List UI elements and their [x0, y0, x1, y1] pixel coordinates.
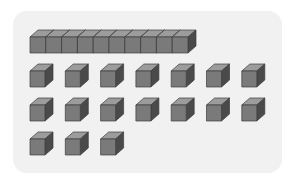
cube-front-face — [46, 37, 62, 53]
unit-cube — [65, 64, 88, 87]
cube-front-face — [136, 105, 151, 121]
cube-front-face — [65, 105, 80, 121]
cube-front-face — [207, 71, 222, 87]
unit-cube — [30, 132, 53, 155]
cube-front-face — [101, 139, 116, 155]
cube-front-face — [141, 37, 157, 53]
unit-cube — [65, 132, 88, 155]
cube-front-face — [136, 71, 151, 87]
unit-cube — [242, 98, 265, 121]
unit-cube — [171, 98, 194, 121]
cube-front-face — [65, 71, 80, 87]
cube-front-face — [242, 105, 257, 121]
unit-cube — [242, 64, 265, 87]
cube-front-face — [30, 37, 46, 53]
unit-cube — [136, 64, 159, 87]
cube-front-face — [30, 105, 45, 121]
unit-cube — [30, 98, 53, 121]
unit-cube — [30, 64, 53, 87]
unit-cube — [101, 132, 124, 155]
unit-cube — [101, 64, 124, 87]
cube-front-face — [172, 37, 188, 53]
cube-front-face — [171, 105, 186, 121]
ten-rod-unit — [172, 30, 196, 53]
cube-front-face — [242, 71, 257, 87]
cube-front-face — [65, 139, 80, 155]
unit-cube — [136, 98, 159, 121]
unit-cube — [207, 98, 230, 121]
cube-front-face — [62, 37, 78, 53]
unit-cube — [171, 64, 194, 87]
base-ten-blocks — [0, 0, 289, 181]
cube-front-face — [171, 71, 186, 87]
cube-front-face — [101, 105, 116, 121]
cube-front-face — [109, 37, 125, 53]
cube-front-face — [101, 71, 116, 87]
cube-front-face — [156, 37, 172, 53]
cube-front-face — [125, 37, 141, 53]
cube-front-face — [77, 37, 93, 53]
cube-front-face — [30, 71, 45, 87]
unit-cube — [65, 98, 88, 121]
unit-cube — [207, 64, 230, 87]
cube-front-face — [30, 139, 45, 155]
cube-front-face — [207, 105, 222, 121]
unit-cube — [101, 98, 124, 121]
cube-front-face — [93, 37, 109, 53]
